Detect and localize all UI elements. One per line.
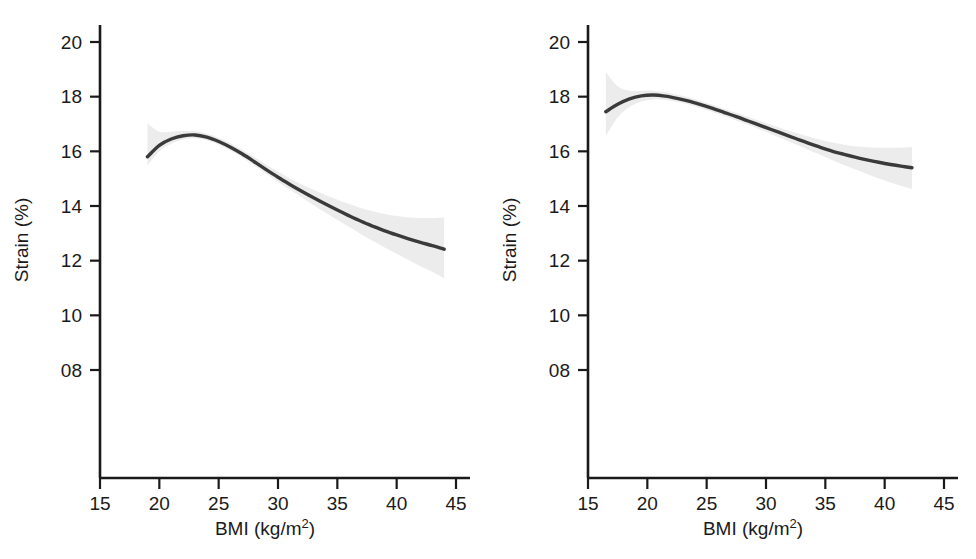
y-tick-label: 14	[549, 196, 571, 217]
chart-svg-right: 08101214161820 15202530354045 BMI (kg/m2…	[488, 0, 976, 559]
y-tick-label: 14	[61, 196, 83, 217]
x-tick-label: 35	[327, 493, 348, 514]
x-axis-ticks-right: 15202530354045	[577, 478, 954, 514]
y-tick-label: 20	[549, 32, 570, 53]
x-tick-label: 30	[267, 493, 288, 514]
y-tick-label: 10	[549, 305, 570, 326]
x-tick-label: 15	[89, 493, 110, 514]
y-tick-label: 16	[549, 141, 570, 162]
x-tick-label: 40	[874, 493, 895, 514]
x-tick-label: 45	[933, 493, 954, 514]
x-tick-label: 25	[696, 493, 717, 514]
y-axis-ticks-right: 08101214161820	[549, 32, 588, 381]
y-tick-label: 08	[61, 360, 82, 381]
y-tick-label: 08	[549, 360, 570, 381]
y-tick-label: 10	[61, 305, 82, 326]
y-tick-label: 18	[61, 86, 82, 107]
y-tick-label: 12	[61, 250, 82, 271]
x-tick-label: 25	[208, 493, 229, 514]
chart-panel-right: 08101214161820 15202530354045 BMI (kg/m2…	[488, 0, 976, 559]
chart-svg-left: 08101214161820 15202530354045 BMI (kg/m2…	[0, 0, 488, 559]
y-tick-label: 16	[61, 141, 82, 162]
confidence-band-left	[147, 123, 444, 278]
y-tick-label: 20	[61, 32, 82, 53]
x-axis-title-left: BMI (kg/m2)	[215, 516, 315, 539]
x-axis-title-right: BMI (kg/m2)	[703, 516, 803, 539]
x-tick-label: 40	[386, 493, 407, 514]
y-axis-ticks-left: 08101214161820	[61, 32, 100, 381]
x-tick-label: 35	[815, 493, 836, 514]
x-axis-ticks-left: 15202530354045	[89, 478, 466, 514]
y-tick-label: 18	[549, 86, 570, 107]
y-tick-label: 12	[549, 250, 570, 271]
figure-container: 08101214161820 15202530354045 BMI (kg/m2…	[0, 0, 976, 559]
y-axis-title-right: Strain (%)	[499, 198, 520, 282]
y-axis-title-left: Strain (%)	[11, 198, 32, 282]
x-tick-label: 15	[577, 493, 598, 514]
chart-panel-left: 08101214161820 15202530354045 BMI (kg/m2…	[0, 0, 488, 559]
x-tick-label: 20	[149, 493, 170, 514]
x-tick-label: 45	[445, 493, 466, 514]
confidence-band-right	[606, 72, 912, 189]
x-tick-label: 20	[637, 493, 658, 514]
x-tick-label: 30	[755, 493, 776, 514]
